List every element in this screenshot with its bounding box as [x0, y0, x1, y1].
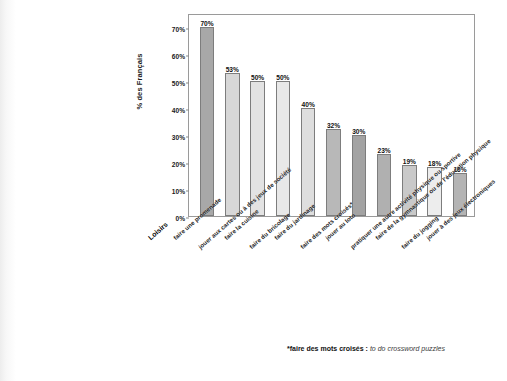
bar: 32%	[326, 129, 341, 216]
x-axis-category-label: faire du jogging	[399, 214, 439, 250]
bar-value-label: 18%	[428, 160, 441, 167]
y-axis-title: % des Français	[135, 22, 144, 142]
y-tick-label: 40%	[172, 106, 185, 113]
bar: 40%	[301, 108, 316, 216]
bar-value-label: 30%	[352, 128, 365, 135]
bar: 30%	[352, 135, 367, 216]
y-tick-label: 10%	[172, 187, 185, 194]
y-tick-label: 0%	[175, 215, 185, 222]
y-tick-label: 50%	[172, 79, 185, 86]
bar-value-label: 70%	[200, 20, 213, 27]
bar-value-label: 32%	[327, 122, 340, 129]
bar: 19%	[402, 165, 417, 216]
y-tick-label: 30%	[172, 133, 185, 140]
y-tick-label: 20%	[172, 160, 185, 167]
bar-value-label: 19%	[403, 158, 416, 165]
y-tick-label: 70%	[172, 25, 185, 32]
bar: 50%	[276, 81, 291, 216]
bar: 53%	[225, 73, 240, 216]
y-tick-label: 60%	[172, 52, 185, 59]
bar: 16%	[453, 173, 468, 216]
bar-value-label: 50%	[276, 74, 289, 81]
chart-page: % des Français 0%10%20%30%40%50%60%70% 7…	[0, 0, 507, 381]
bar: 50%	[250, 81, 265, 216]
y-tick-mark	[186, 218, 189, 219]
bar-series: 70%53%50%50%40%32%30%23%19%18%16%	[189, 15, 474, 216]
footnote-gloss: to do crossword puzzles	[370, 345, 445, 352]
bar-value-label: 23%	[377, 147, 390, 154]
bar: 70%	[200, 27, 215, 216]
footnote: *faire des mots croisés : to do crosswor…	[287, 345, 445, 352]
x-axis-title: Loisirs	[147, 221, 169, 242]
bar-value-label: 50%	[251, 74, 264, 81]
footnote-term: *faire des mots croisés :	[287, 345, 368, 352]
bar-value-label: 16%	[453, 166, 466, 173]
bar: 18%	[427, 167, 442, 216]
bar-value-label: 40%	[302, 101, 315, 108]
plot-area: % des Français 0%10%20%30%40%50%60%70% 7…	[188, 14, 475, 217]
bar: 23%	[377, 154, 392, 216]
bar-value-label: 53%	[226, 66, 239, 73]
